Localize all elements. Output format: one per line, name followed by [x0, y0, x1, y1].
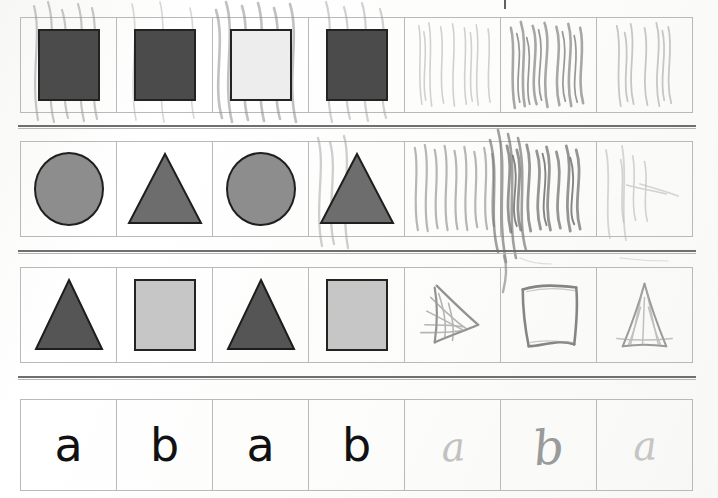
pattern-row-circle-triangle: [20, 141, 693, 237]
pattern-cell[interactable]: [117, 268, 213, 362]
pattern-cell[interactable]: a: [21, 400, 117, 490]
triangle-shape: [126, 151, 204, 227]
hand-drawn-triangle-mark: [405, 268, 500, 362]
cell-content: b: [117, 400, 212, 490]
cell-content: [309, 268, 404, 362]
row-separator: [18, 250, 696, 255]
pattern-cell[interactable]: b: [117, 400, 213, 490]
pencil-scribble-mark: [405, 18, 500, 112]
pencil-scribble-mark: [501, 142, 596, 236]
cell-content: a: [405, 400, 500, 490]
pattern-row-triangle-square: [20, 267, 693, 363]
circle-shape: [226, 152, 296, 226]
hand-drawn-triangle-mark: [597, 268, 692, 362]
pencil-scribble-mark: [405, 142, 500, 236]
cell-content: [213, 268, 308, 362]
square-shape-light: [134, 279, 196, 351]
pattern-cell[interactable]: [309, 142, 405, 236]
handwritten-letter: a: [632, 425, 658, 466]
cell-content: [21, 18, 116, 112]
pattern-answer-cell[interactable]: [405, 142, 501, 236]
pattern-cell[interactable]: [213, 142, 309, 236]
cell-content: [117, 268, 212, 362]
pattern-answer-cell[interactable]: a: [597, 400, 692, 490]
pattern-answer-cell[interactable]: [597, 18, 692, 112]
pattern-cell[interactable]: [21, 18, 117, 112]
cell-content: [213, 18, 308, 112]
cell-content: b: [501, 400, 596, 490]
row-grid: [20, 17, 693, 113]
pattern-row-squares: [20, 17, 693, 113]
pattern-cell[interactable]: [21, 142, 117, 236]
square-shape-dark: [134, 29, 196, 101]
printed-letter: a: [54, 422, 82, 468]
cell-content: [117, 18, 212, 112]
cell-content: [21, 268, 116, 362]
separator-line-thin: [18, 128, 696, 129]
cell-content: a: [213, 400, 308, 490]
pattern-answer-cell[interactable]: b: [501, 400, 597, 490]
pattern-cell[interactable]: [117, 142, 213, 236]
pattern-cell[interactable]: [213, 18, 309, 112]
row-grid: [20, 267, 693, 363]
separator-line-thin: [18, 253, 696, 254]
pattern-answer-cell[interactable]: [597, 268, 692, 362]
triangle-shape-dark: [30, 277, 108, 353]
handwritten-letter: a: [439, 426, 466, 468]
cell-content: [117, 142, 212, 236]
handwritten-letter: b: [531, 422, 567, 473]
cell-content: [213, 142, 308, 236]
separator-line-thin: [18, 379, 696, 380]
printed-letter: a: [246, 422, 274, 468]
square-shape-light: [326, 279, 388, 351]
pattern-cell[interactable]: [309, 18, 405, 112]
printed-letter: b: [150, 422, 179, 468]
square-shape-dark: [326, 29, 388, 101]
pattern-answer-cell[interactable]: [597, 142, 692, 236]
pattern-answer-cell[interactable]: [501, 18, 597, 112]
row-separator: [18, 125, 696, 130]
row-grid: [20, 141, 693, 237]
pencil-scribble-mark: [501, 18, 596, 112]
row-separator: [18, 376, 696, 381]
pattern-row-letters: a b a b a: [20, 399, 693, 491]
cell-content: b: [309, 400, 404, 490]
pencil-scribble-mark: [597, 142, 692, 236]
pattern-answer-cell[interactable]: [501, 268, 597, 362]
circle-shape: [34, 152, 104, 226]
pattern-cell[interactable]: b: [309, 400, 405, 490]
pattern-cell[interactable]: [309, 268, 405, 362]
cell-content: [309, 18, 404, 112]
cell-content: a: [597, 400, 692, 490]
pattern-answer-cell[interactable]: a: [405, 400, 501, 490]
pattern-cell[interactable]: a: [213, 400, 309, 490]
separator-line-thick: [18, 125, 696, 127]
worksheet-sheet: a b a b a: [0, 0, 718, 498]
triangle-shape: [318, 151, 396, 227]
pattern-cell[interactable]: [213, 268, 309, 362]
triangle-shape-dark: [222, 277, 300, 353]
pattern-answer-cell[interactable]: [405, 18, 501, 112]
cell-content: [309, 142, 404, 236]
pattern-answer-cell[interactable]: [405, 268, 501, 362]
cell-content: [21, 142, 116, 236]
separator-line-thick: [18, 250, 696, 252]
pencil-scribble-mark: [597, 18, 692, 112]
square-shape-dark: [38, 29, 100, 101]
pattern-answer-cell[interactable]: [501, 142, 597, 236]
square-shape-scribbled: [230, 29, 292, 101]
printed-letter: b: [342, 422, 371, 468]
hand-drawn-square-mark: [501, 268, 596, 362]
pattern-cell[interactable]: [21, 268, 117, 362]
row-grid: a b a b a: [20, 399, 693, 491]
cell-content: a: [21, 400, 116, 490]
separator-line-thick: [18, 376, 696, 378]
pattern-cell[interactable]: [117, 18, 213, 112]
